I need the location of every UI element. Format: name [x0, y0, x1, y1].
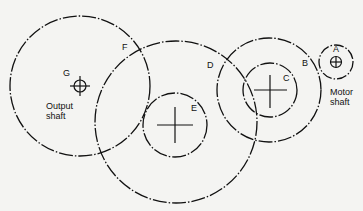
motor-shaft-center-icon	[331, 57, 342, 68]
label-g: G	[63, 68, 70, 78]
label-b: B	[302, 58, 308, 68]
motor-shaft-label: Motor shaft	[330, 87, 353, 107]
label-f: F	[122, 42, 128, 52]
gear-d-circle	[95, 41, 257, 203]
motor-shaft-label-line1: Motor	[330, 87, 353, 97]
label-e: E	[191, 103, 197, 113]
label-a: A	[333, 44, 339, 54]
output-shaft-label-line2: shaft	[46, 111, 73, 121]
output-shaft-center-icon	[70, 76, 90, 96]
de-shaft-center-icon	[157, 107, 193, 143]
output-shaft-label: Output shaft	[46, 101, 73, 121]
label-c: C	[283, 73, 290, 83]
motor-shaft-label-line2: shaft	[330, 97, 353, 107]
output-shaft-label-line1: Output	[46, 101, 73, 111]
label-d: D	[207, 60, 214, 70]
gear-train-diagram: G F D E C B A Output shaft Motor shaft	[0, 0, 363, 211]
